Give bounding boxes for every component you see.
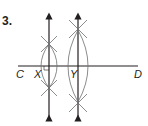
label-y: Y [70,68,77,80]
construction-diagram [0,0,148,126]
label-d: D [134,68,142,80]
label-x: X [34,68,41,80]
label-c: C [16,68,24,80]
